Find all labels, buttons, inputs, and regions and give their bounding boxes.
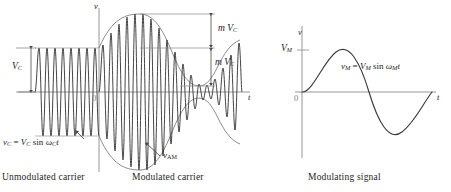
lower-mvc-label: m VC bbox=[215, 57, 234, 67]
left-v-axis-label: v bbox=[94, 1, 98, 11]
upper-mvc-dimension bbox=[140, 14, 215, 48]
carrier-equation: vC = VC sin ωCt bbox=[3, 137, 59, 147]
left-t-axis-label: t bbox=[248, 92, 250, 102]
right-origin-label: 0 bbox=[294, 93, 298, 103]
right-t-axis-label: t bbox=[437, 92, 439, 102]
lower-mvc-dimension bbox=[180, 50, 215, 86]
caption-modulating-signal: Modulating signal bbox=[308, 172, 381, 182]
upper-mvc-label: m VC bbox=[218, 23, 237, 33]
caption-unmodulated-carrier: Unmodulated carrier bbox=[2, 172, 85, 182]
vam-label: vAM bbox=[163, 150, 177, 160]
right-v-axis-label: v bbox=[298, 27, 302, 37]
vm-amplitude-label: VM bbox=[281, 43, 292, 53]
am-modulation-figure: v t 0 VC m VC m VC vC = VC sin ωCt vAM v… bbox=[0, 0, 451, 192]
vc-amplitude-label: VC bbox=[12, 61, 22, 71]
modulating-equation: vM = VM sin ωMt bbox=[341, 61, 400, 71]
left-origin-label: 0 bbox=[92, 93, 96, 103]
right-axes bbox=[295, 26, 436, 158]
caption-modulated-carrier: Modulated carrier bbox=[132, 172, 204, 182]
